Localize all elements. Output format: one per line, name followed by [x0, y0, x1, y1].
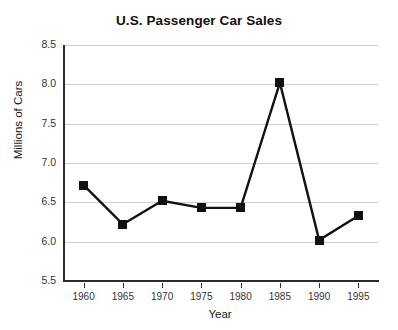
x-axis-title: Year	[60, 308, 380, 320]
data-point-marker	[354, 211, 363, 220]
chart-title: U.S. Passenger Car Sales	[0, 13, 398, 28]
gridline	[64, 242, 378, 243]
x-axis-tick-label: 1980	[221, 291, 261, 302]
y-axis-tick-label: 6.5	[26, 195, 56, 207]
data-point-marker	[118, 220, 127, 229]
x-axis-tick-label: 1985	[260, 291, 300, 302]
x-axis-line	[63, 280, 379, 282]
y-axis-tick-label: 7.5	[26, 117, 56, 129]
x-axis-tick-label: 1975	[181, 291, 221, 302]
gridline	[64, 202, 378, 203]
gridline	[64, 163, 378, 164]
plot-area: 8.58.07.57.06.56.05.5	[64, 45, 378, 281]
x-axis-tick-label: 1970	[142, 291, 182, 302]
gridline	[64, 84, 378, 85]
y-axis-title: Millions of Cars	[8, 55, 28, 185]
x-axis-tick-mark	[201, 283, 202, 288]
data-point-marker	[315, 236, 324, 245]
data-point-marker	[197, 203, 206, 212]
gridline	[64, 45, 378, 46]
x-axis-tick-label: 1965	[103, 291, 143, 302]
y-axis-tick-label: 8.0	[26, 77, 56, 89]
y-axis-tick-label: 8.5	[26, 38, 56, 50]
x-axis-tick-mark	[84, 283, 85, 288]
chart-container: U.S. Passenger Car Sales Millions of Car…	[0, 0, 398, 330]
x-axis-tick-mark	[358, 283, 359, 288]
data-point-marker	[275, 78, 284, 87]
data-point-marker	[236, 203, 245, 212]
y-axis-tick-label: 6.0	[26, 235, 56, 247]
y-axis-line	[63, 45, 65, 281]
x-axis-tick-label: 1995	[338, 291, 378, 302]
y-axis-title-text: Millions of Cars	[12, 81, 24, 160]
x-axis-tick-mark	[319, 283, 320, 288]
x-axis-tick-mark	[123, 283, 124, 288]
x-axis-tick-mark	[241, 283, 242, 288]
x-axis-tick-label: 1990	[299, 291, 339, 302]
x-axis-tick-mark	[162, 283, 163, 288]
y-axis-tick-label: 7.0	[26, 156, 56, 168]
data-point-marker	[158, 196, 167, 205]
x-axis-tick-mark	[280, 283, 281, 288]
y-axis-tick-label: 5.5	[26, 274, 56, 286]
data-point-marker	[79, 181, 88, 190]
x-axis-tick-label: 1960	[64, 291, 104, 302]
gridline	[64, 124, 378, 125]
